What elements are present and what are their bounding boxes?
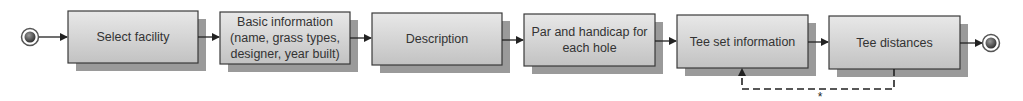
step-label: (name, grass types, [230, 31, 340, 45]
step-basic-information: Basic information (name, grass types, de… [220, 12, 358, 72]
process-flow-diagram: Select facility Basic information (name,… [0, 0, 1023, 101]
step-label: designer, year built) [230, 47, 339, 61]
end-event-icon [983, 35, 1000, 52]
step-label: Description [406, 32, 469, 46]
svg-text:Select facility: Select facility [97, 30, 171, 44]
step-label: Basic information [237, 15, 333, 29]
step-label: Par and handicap for [531, 25, 647, 39]
step-label: Select facility [97, 30, 171, 44]
svg-text:(name, grass types,: (name, grass types, [230, 31, 340, 45]
svg-text:Tee distances: Tee distances [856, 36, 932, 50]
step-tee-distances: Tee distances [829, 16, 968, 77]
start-event-icon [22, 29, 39, 46]
loop-multiplicity-label: * [818, 90, 823, 101]
svg-text:designer, year built): designer, year built) [230, 47, 339, 61]
step-tee-set-information: Tee set information [677, 15, 816, 76]
step-description: Description [372, 13, 510, 73]
step-label: Tee distances [856, 36, 932, 50]
step-select-facility: Select facility [68, 11, 206, 71]
svg-text:Basic information: Basic information [237, 15, 333, 29]
svg-text:Par and handicap for: Par and handicap for [531, 25, 647, 39]
step-label: each hole [562, 41, 616, 55]
step-label: Tee set information [690, 35, 796, 49]
svg-text:Tee set information: Tee set information [690, 35, 796, 49]
svg-text:each hole: each hole [562, 41, 616, 55]
step-par-handicap: Par and handicap for each hole [524, 14, 663, 74]
svg-text:Description: Description [406, 32, 469, 46]
